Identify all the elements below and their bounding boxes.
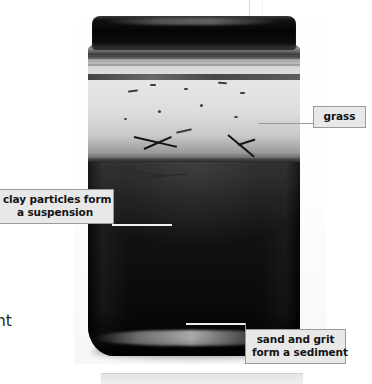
glass-jar (88, 16, 300, 356)
leader-line-clay (112, 224, 172, 226)
floating-speck (234, 116, 238, 118)
submerged-grass-blade (112, 202, 180, 220)
next-figure-strip (101, 374, 303, 384)
floating-speck (176, 128, 192, 133)
body-paragraph-bottom: s h orce weight the ruct (0, 242, 12, 378)
floating-speck (184, 88, 188, 90)
leader-line-sand (186, 323, 246, 325)
callout-grass: grass (313, 106, 366, 128)
floating-speck (158, 110, 161, 113)
jar-lid (92, 16, 296, 50)
floating-speck (150, 84, 156, 86)
jar-body (88, 44, 300, 356)
submerged-grass-blade (108, 166, 164, 177)
leader-line-grass (258, 123, 314, 124)
floating-speck (218, 82, 227, 85)
textbook-page: d about se two do not olids. s h orce we… (0, 0, 372, 384)
callout-sand-and-grit: sand and grit form a sediment (245, 329, 346, 364)
clear-water-layer (88, 44, 300, 162)
floating-speck (124, 118, 127, 120)
floating-speck (240, 92, 245, 94)
lid-highlight (102, 18, 286, 25)
floating-speck (128, 89, 138, 92)
floating-speck (200, 104, 203, 107)
debris-band (88, 74, 300, 80)
jar-neck-ring (88, 56, 300, 59)
page-hairline (249, 0, 250, 16)
jar-photograph (74, 0, 326, 364)
callout-clay-particles: clay particles form a suspension (0, 189, 114, 224)
jar-neck-ring (88, 64, 300, 66)
